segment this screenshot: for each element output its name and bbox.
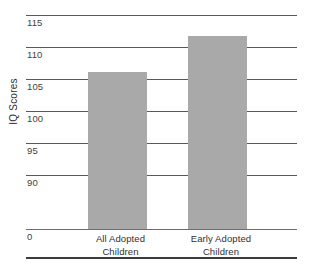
category-label-early-adopted-children: Early Adopted Children: [155, 233, 287, 258]
y-tick-label-110: 110: [27, 49, 42, 60]
y-tick-label-115: 115: [27, 17, 42, 28]
y-tick-label-zero: 0: [27, 231, 32, 242]
y-tick-label-105: 105: [27, 81, 43, 92]
y-tick-label-100: 100: [27, 113, 43, 124]
y-tick-label-90: 90: [27, 177, 38, 188]
gridline-110: [26, 47, 297, 48]
category-label-line1: Early Adopted: [155, 233, 287, 246]
gridline-115: [26, 15, 297, 16]
gridline-100: [26, 111, 297, 112]
gridline-105: [26, 79, 297, 80]
baseline-axis: [26, 229, 297, 230]
bar-chart-figure: IQ Scores 115 110 105 100 95 90 0 All Ad…: [0, 0, 316, 272]
gridline-90: [26, 175, 297, 176]
y-tick-label-95: 95: [27, 145, 38, 156]
plot-area: [26, 15, 297, 229]
gridline-95: [26, 143, 297, 144]
y-axis-title: IQ Scores: [8, 67, 19, 137]
bottom-rule: [26, 257, 297, 259]
bar-early-adopted-children: [188, 36, 247, 229]
bar-all-adopted-children: [88, 72, 147, 229]
